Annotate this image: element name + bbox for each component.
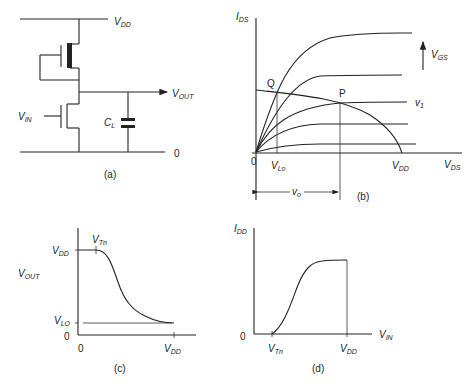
svg-text:0: 0 [64, 331, 70, 342]
svg-text:VIN: VIN [18, 111, 33, 123]
svg-text:VDD: VDD [114, 16, 131, 28]
capacitor-plate-top [121, 118, 135, 121]
svg-text:0: 0 [174, 148, 180, 159]
point-q-label: Q [267, 78, 275, 89]
svg-text:VOUT: VOUT [172, 88, 194, 100]
svg-text:IDS: IDS [236, 11, 249, 23]
svg-text:0: 0 [251, 156, 257, 167]
panel-a-circuit: VDD VOUT VIN CL 0 (a) [18, 16, 194, 180]
svg-text:VOUT: VOUT [18, 268, 40, 280]
svg-text:VTn: VTn [92, 234, 107, 246]
svg-text:v1: v1 [415, 97, 424, 109]
panel-c-transfer-curve: VOUT VDD VTn VLO 0 0 VDD (c) [18, 228, 196, 374]
svg-text:0: 0 [78, 343, 84, 354]
depletion-channel [67, 43, 72, 68]
figure-canvas: VDD VOUT VIN CL 0 (a) [0, 0, 476, 386]
svg-text:0: 0 [240, 331, 246, 342]
svg-text:VDS: VDS [444, 159, 461, 171]
svg-text:IDD: IDD [234, 223, 247, 235]
panel-b-iv-curves: IDS VDS VGS Q P v1 0 VLo VDD vo (b) [236, 11, 462, 202]
svg-text:VDD: VDD [340, 343, 357, 355]
svg-text:vo: vo [292, 186, 301, 198]
panel-b-label: (b) [357, 191, 369, 202]
point-p-label: P [339, 88, 346, 99]
svg-text:CL: CL [104, 117, 115, 129]
panel-d-current-curve: IDD VIN 0 VTn VDD (d) [234, 223, 394, 374]
svg-text:VTn: VTn [268, 343, 283, 355]
panel-a-label: (a) [104, 169, 116, 180]
panel-c-label: (c) [114, 363, 126, 374]
svg-text:VGS: VGS [431, 49, 448, 61]
panel-d-label: (d) [312, 363, 324, 374]
svg-text:VDD: VDD [392, 160, 409, 172]
svg-text:VDD: VDD [52, 245, 69, 257]
svg-text:VDD: VDD [164, 343, 181, 355]
svg-text:VLo: VLo [271, 160, 286, 172]
svg-text:VLO: VLO [54, 315, 71, 327]
svg-text:VIN: VIN [379, 329, 394, 341]
